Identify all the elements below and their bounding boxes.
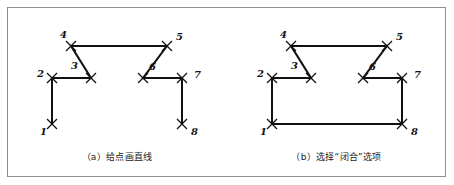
vertex-label-1: 1 [260, 126, 267, 137]
polyline-diagram-open: 12345678 [7, 7, 227, 147]
vertex-label-5: 5 [396, 31, 403, 42]
vertex-label-4: 4 [60, 29, 67, 40]
vertex-label-5: 5 [176, 31, 183, 42]
vertex-label-8: 8 [411, 126, 418, 137]
vertex-label-2: 2 [36, 68, 44, 79]
caption-panel-b: （b）选择“闭合”选项 [227, 150, 446, 163]
diagram-panel-b: 12345678 （b）选择“闭合”选项 [227, 7, 446, 177]
vertex-label-1: 1 [40, 126, 47, 137]
diagram-panel-a: 12345678 （a）给点画直线 [7, 7, 227, 177]
vertex-label-3: 3 [291, 60, 298, 71]
polyline-segments [52, 46, 182, 124]
vertex-label-7: 7 [194, 69, 201, 80]
polyline-segments [272, 46, 402, 124]
vertex-label-2: 2 [256, 68, 264, 79]
vertex-label-6: 6 [369, 61, 376, 72]
vertex-label-3: 3 [71, 60, 78, 71]
vertex-label-4: 4 [280, 29, 287, 40]
figure-root: 12345678 （a）给点画直线 12345678 （b）选择“闭合”选项 [0, 0, 454, 185]
vertex-label-6: 6 [149, 61, 156, 72]
vertex-label-8: 8 [191, 126, 198, 137]
vertex-label-7: 7 [414, 69, 421, 80]
polyline-diagram-closed: 12345678 [227, 7, 446, 147]
caption-panel-a: （a）给点画直线 [7, 150, 227, 163]
